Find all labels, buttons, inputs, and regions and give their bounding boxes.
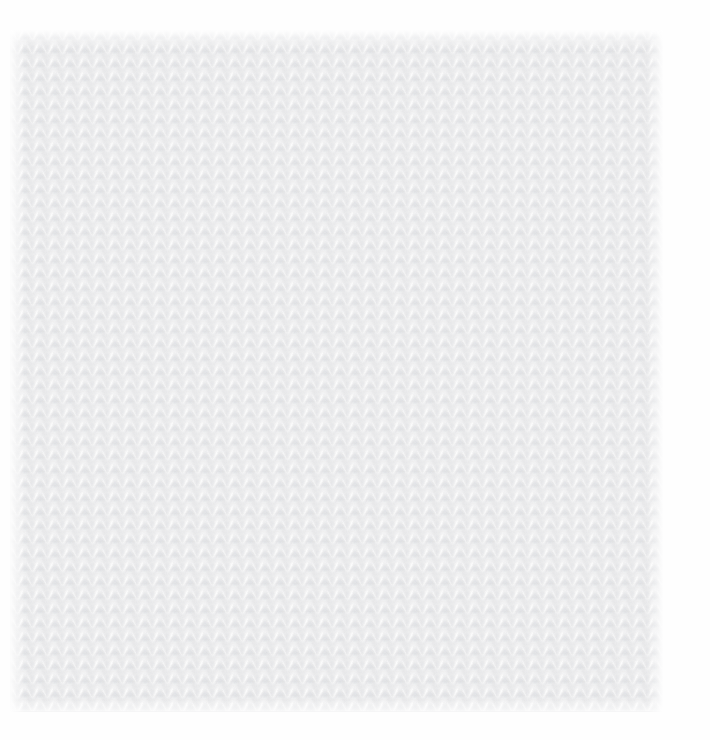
image-canvas (0, 0, 710, 740)
fiber-grain-overlay (10, 30, 663, 712)
swatch-bottom-edge (10, 711, 663, 712)
fiber-grain-svg (10, 30, 663, 712)
knitted-fabric-swatch (10, 30, 663, 712)
swatch-left-edge (10, 30, 11, 712)
